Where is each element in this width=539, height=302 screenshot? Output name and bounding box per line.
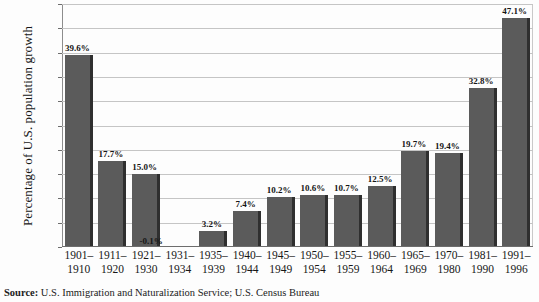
bar[interactable]: 7.4% [233, 211, 261, 247]
bar-value-label: 3.2% [202, 219, 222, 229]
bar-value-label: 12.5% [368, 174, 393, 184]
bar-value-label: 32.8% [469, 76, 494, 86]
bar-value-label: 39.6% [65, 43, 90, 53]
y-tick-mark [58, 198, 62, 199]
y-tick-mark [58, 101, 62, 102]
bar-value-label: 19.7% [401, 139, 426, 149]
y-tick-mark [58, 247, 62, 248]
source-text: U.S. Immigration and Naturalization Serv… [38, 287, 319, 298]
bar-value-label: -0.1% [140, 236, 163, 246]
bar[interactable]: 19.7% [401, 151, 429, 247]
y-tick-mark [58, 126, 62, 127]
y-axis-title: Percentage of U.S. population growth [20, 6, 36, 246]
bar[interactable]: 10.6% [300, 195, 328, 247]
bar-value-label: 7.4% [235, 199, 255, 209]
x-tick-label: 1991–1996 [495, 249, 537, 276]
source-note: Source: U.S. Immigration and Naturalizat… [4, 287, 319, 298]
x-axis-baseline [62, 246, 533, 247]
source-label: Source: [4, 287, 38, 298]
x-axis-labels: 1901–19101911–19201921–19301931–19341935… [62, 249, 533, 281]
bar-value-label: 10.6% [300, 183, 325, 193]
y-tick-mark [58, 4, 62, 5]
bar-value-label: 10.7% [334, 183, 359, 193]
gridline [62, 101, 533, 102]
y-tick-mark [58, 28, 62, 29]
gridline [62, 53, 533, 54]
bar-value-label: 15.0% [132, 162, 157, 172]
gridline [62, 126, 533, 127]
bar[interactable]: 19.4% [435, 153, 463, 247]
y-tick-mark [58, 174, 62, 175]
bar[interactable]: 17.7% [98, 161, 126, 247]
x-tick-label-line2: 1996 [495, 263, 537, 277]
bar[interactable]: 10.7% [334, 195, 362, 247]
gridline [62, 28, 533, 29]
bar[interactable]: 10.2% [267, 197, 295, 247]
gridline [62, 4, 533, 5]
bar-value-label: 19.4% [435, 141, 460, 151]
gridline [62, 77, 533, 78]
chart-figure: Percentage of U.S. population growth 50%… [0, 0, 539, 302]
bar-value-label: 47.1% [502, 6, 527, 16]
y-tick-mark [58, 53, 62, 54]
bar-value-label: 10.2% [267, 185, 292, 195]
gridline [62, 150, 533, 151]
y-tick-mark [58, 77, 62, 78]
y-tick-mark [58, 150, 62, 151]
bar[interactable]: 3.2% [199, 231, 227, 247]
y-tick-mark [58, 223, 62, 224]
plot-area: 50%40%35%30%25%20%15%10%5%0 39.6%17.7%15… [62, 4, 533, 247]
bar[interactable]: 39.6% [65, 55, 93, 247]
x-tick-label-line1: 1991– [495, 249, 537, 263]
bar-value-label: 17.7% [99, 149, 124, 159]
bar[interactable]: 12.5% [368, 186, 396, 247]
bar[interactable]: 32.8% [469, 88, 497, 247]
bar[interactable]: 47.1% [502, 18, 530, 247]
